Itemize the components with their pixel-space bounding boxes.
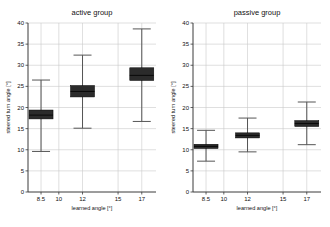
x-tick-label: 17 <box>138 196 145 202</box>
y-tick-label: 15 <box>182 126 189 132</box>
y-tick-label: 25 <box>17 83 24 89</box>
y-tick-label: 0 <box>21 189 25 195</box>
y-tick-label: 35 <box>17 41 24 47</box>
y-axis-ticks-passive: 0510152025303540 <box>182 20 193 195</box>
box-rect <box>29 110 53 119</box>
y-axis-ticks-active: 0510152025303540 <box>17 20 28 195</box>
y-tick-label: 10 <box>182 147 189 153</box>
boxplot-group <box>71 55 95 128</box>
y-tick-label: 30 <box>17 62 24 68</box>
y-tick-label: 20 <box>17 105 24 111</box>
y-tick-label: 5 <box>186 168 190 174</box>
x-axis-label-active: learned angle [°] <box>72 205 113 211</box>
y-tick-label: 25 <box>182 83 189 89</box>
y-tick-label: 30 <box>182 62 189 68</box>
x-tick-label: 8.5 <box>202 196 211 202</box>
y-tick-label: 20 <box>182 105 189 111</box>
grid-lines-passive <box>193 23 321 192</box>
x-tick-label: 10 <box>220 196 227 202</box>
x-tick-label: 17 <box>303 196 310 202</box>
x-tick-label: 15 <box>115 196 122 202</box>
chart-panel-active: active group05101520253035408.510121517l… <box>0 0 165 227</box>
boxplot-svg-passive: passive group05101520253035408.510121517… <box>165 0 330 227</box>
grid-lines-active <box>28 23 156 192</box>
x-tick-label: 12 <box>244 196 251 202</box>
y-axis-label-passive: steered turn angle [°] <box>170 81 176 133</box>
boxplot-group <box>295 102 319 145</box>
y-tick-label: 40 <box>182 20 189 26</box>
x-axis-label-passive: learned angle [°] <box>237 205 278 211</box>
x-axis-ticks-active: 8.510121517 <box>37 192 146 202</box>
y-tick-label: 0 <box>186 189 190 195</box>
figure-canvas: active group05101520253035408.510121517l… <box>0 0 330 227</box>
chart-title-passive: passive group <box>234 8 281 17</box>
x-axis-ticks-passive: 8.510121517 <box>202 192 311 202</box>
x-tick-label: 10 <box>55 196 62 202</box>
x-tick-label: 15 <box>280 196 287 202</box>
y-tick-label: 15 <box>17 126 24 132</box>
boxplot-group <box>29 80 53 151</box>
boxplot-group <box>236 118 260 152</box>
x-tick-label: 8.5 <box>37 196 46 202</box>
y-axis-label-active: steered turn angle [°] <box>5 81 11 133</box>
x-tick-label: 12 <box>79 196 86 202</box>
boxplot-group <box>194 130 218 161</box>
chart-panel-passive: passive group05101520253035408.510121517… <box>165 0 330 227</box>
y-tick-label: 40 <box>17 20 24 26</box>
y-tick-label: 35 <box>182 41 189 47</box>
chart-title-active: active group <box>72 8 113 17</box>
y-tick-label: 5 <box>21 168 25 174</box>
boxplot-svg-active: active group05101520253035408.510121517l… <box>0 0 165 227</box>
y-tick-label: 10 <box>17 147 24 153</box>
box-rect <box>130 68 154 81</box>
